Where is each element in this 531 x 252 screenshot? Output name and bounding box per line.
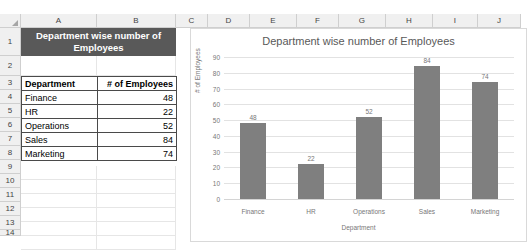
chart-bar[interactable] (414, 66, 440, 199)
chart-bars: 4822528474 (224, 57, 514, 199)
merged-title-cell[interactable]: Department wise number of Employees (21, 28, 176, 56)
cell-department[interactable]: Finance (22, 91, 98, 105)
chart-bar-column[interactable]: 52 (340, 57, 398, 199)
chart-gridline: 0 (224, 199, 514, 200)
cell-employees[interactable]: 74 (98, 147, 177, 161)
chart-y-tick-label: 80 (213, 69, 220, 76)
chart-y-tick-label: 40 (213, 132, 220, 139)
cell-employees[interactable]: 84 (98, 133, 177, 147)
chart-title: Department wise number of Employees (191, 35, 526, 47)
row-header-5[interactable]: 5 (0, 104, 21, 118)
chart-y-tick-label: 90 (213, 54, 220, 61)
cell-b11[interactable] (97, 194, 176, 208)
cell-b13[interactable] (97, 222, 176, 236)
cell-a14[interactable] (21, 236, 97, 250)
chart-y-tick-label: 50 (213, 117, 220, 124)
column-header-c[interactable]: C (176, 14, 208, 28)
column-header-strip: A B C D E F G H I J (0, 14, 521, 28)
chart-x-tick-label: HR (282, 208, 340, 215)
chart-bar-column[interactable]: 48 (224, 57, 282, 199)
chart-data-label: 74 (456, 73, 514, 80)
cell-a9[interactable] (21, 166, 97, 180)
table-row: HR 22 (22, 105, 177, 119)
chart-y-tick-label: 60 (213, 101, 220, 108)
cell-b9[interactable] (97, 166, 176, 180)
column-header-j[interactable]: J (478, 14, 521, 28)
chart-data-label: 52 (340, 108, 398, 115)
chart-data-label: 22 (282, 155, 340, 162)
row-header-12[interactable]: 12 (0, 202, 21, 216)
table-row: Sales 84 (22, 133, 177, 147)
column-header-d[interactable]: D (208, 14, 250, 28)
row-header-9[interactable]: 9 (0, 160, 21, 174)
table-header-department[interactable]: Department (22, 77, 98, 91)
row-header-7[interactable]: 7 (0, 132, 21, 146)
row-header-4[interactable]: 4 (0, 90, 21, 104)
chart-bar[interactable] (356, 117, 382, 199)
column-header-g[interactable]: G (339, 14, 386, 28)
chart-bar-column[interactable]: 74 (456, 57, 514, 199)
column-header-a[interactable]: A (21, 14, 97, 28)
cell-employees[interactable]: 52 (98, 119, 177, 133)
chart-x-tick-label: Sales (398, 208, 456, 215)
row-header-6[interactable]: 6 (0, 118, 21, 132)
chart-x-tick-label: Finance (224, 208, 282, 215)
cell-employees[interactable]: 22 (98, 105, 177, 119)
column-header-b[interactable]: B (97, 14, 176, 28)
chart-bar-column[interactable]: 84 (398, 57, 456, 199)
row-header-strip: 1 2 3 4 5 6 7 8 9 10 11 12 13 14 (0, 28, 21, 236)
cell-b2[interactable] (97, 56, 176, 76)
column-header-h[interactable]: H (386, 14, 433, 28)
cell-department[interactable]: Operations (22, 119, 98, 133)
chart-x-tick-label: Operations (340, 208, 398, 215)
chart-y-axis-title: # of Employees (194, 48, 201, 93)
column-header-i[interactable]: I (433, 14, 478, 28)
column-header-e[interactable]: E (250, 14, 297, 28)
row-header-10[interactable]: 10 (0, 174, 21, 188)
table-row: Marketing 74 (22, 147, 177, 161)
chart-y-tick-label: 30 (213, 148, 220, 155)
cell-department[interactable]: HR (22, 105, 98, 119)
column-header-f[interactable]: F (297, 14, 339, 28)
cell-b12[interactable] (97, 208, 176, 222)
chart-bar[interactable] (240, 123, 266, 199)
select-all-triangle-icon (12, 20, 18, 26)
table-header-employees[interactable]: # of Employees (98, 77, 177, 91)
row-header-2[interactable]: 2 (0, 56, 21, 76)
chart-plot-area: 9080706050403020100 4822528474 (224, 57, 514, 199)
cell-department[interactable]: Sales (22, 133, 98, 147)
cell-a11[interactable] (21, 194, 97, 208)
chart-data-label: 48 (224, 114, 282, 121)
cell-employees[interactable]: 48 (98, 91, 177, 105)
chart-bar-column[interactable]: 22 (282, 57, 340, 199)
chart-data-label: 84 (398, 57, 456, 64)
row-header-14[interactable]: 14 (0, 230, 21, 236)
row-header-13[interactable]: 13 (0, 216, 21, 230)
chart-y-tick-label: 10 (213, 180, 220, 187)
cell-a2[interactable] (21, 56, 97, 76)
row-header-3[interactable]: 3 (0, 76, 21, 90)
chart-bar[interactable] (472, 82, 498, 199)
select-all-corner[interactable] (0, 14, 21, 28)
embedded-chart[interactable]: Department wise number of Employees # of… (190, 28, 527, 242)
data-table: Department # of Employees Finance 48 HR … (21, 76, 177, 161)
table-row: Operations 52 (22, 119, 177, 133)
row-header-11[interactable]: 11 (0, 188, 21, 202)
cell-b10[interactable] (97, 180, 176, 194)
cell-department[interactable]: Marketing (22, 147, 98, 161)
row-header-8[interactable]: 8 (0, 146, 21, 160)
chart-x-axis-title: Department (191, 224, 526, 231)
spreadsheet-canvas: A B C D E F G H I J 1 2 3 4 5 6 7 8 9 10… (0, 0, 531, 252)
cell-b14[interactable] (97, 236, 176, 250)
cell-a12[interactable] (21, 208, 97, 222)
chart-x-axis-labels: FinanceHROperationsSalesMarketing (224, 208, 514, 215)
table-header-row: Department # of Employees (22, 77, 177, 91)
chart-y-tick-label: 70 (213, 85, 220, 92)
chart-x-tick-label: Marketing (456, 208, 514, 215)
row-header-1[interactable]: 1 (0, 28, 21, 56)
chart-y-tick-label: 0 (216, 196, 220, 203)
cell-a10[interactable] (21, 180, 97, 194)
chart-bar[interactable] (298, 164, 324, 199)
chart-y-tick-label: 20 (213, 164, 220, 171)
cell-a13[interactable] (21, 222, 97, 236)
